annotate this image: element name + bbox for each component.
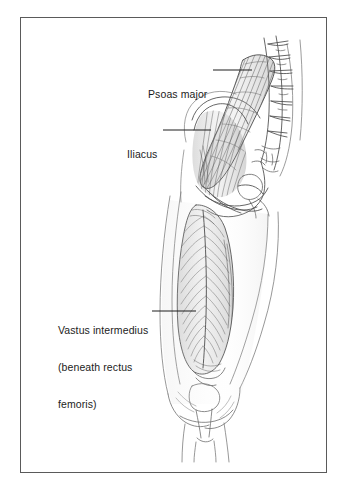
limb-soft-shading: [162, 200, 268, 404]
label-vastus-intermedius-line-3: femoris): [58, 398, 148, 410]
label-psoas-major: Psoas major: [148, 63, 207, 125]
label-iliacus-line-1: Iliacus: [127, 148, 157, 160]
label-iliacus: Iliacus: [127, 123, 157, 185]
label-vastus-intermedius-line-2: (beneath rectus: [58, 361, 148, 373]
label-vastus-intermedius-line-1: Vastus intermedius: [58, 324, 148, 336]
label-psoas-major-line-1: Psoas major: [148, 88, 207, 100]
anatomical-figure: Psoas major Iliacus Vastus intermedius (…: [0, 0, 348, 487]
label-vastus-intermedius: Vastus intermedius (beneath rectus femor…: [58, 299, 148, 435]
torso-outline: [280, 40, 302, 176]
lower-leg-outline: [182, 423, 229, 462]
